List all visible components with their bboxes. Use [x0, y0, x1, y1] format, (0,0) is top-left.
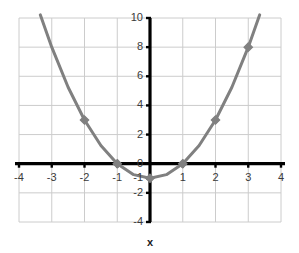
- x-axis-title: x: [130, 237, 170, 248]
- data-point-markers: [80, 43, 252, 183]
- y-tick-label: 2: [137, 129, 143, 140]
- x-tick-label: -1: [105, 172, 129, 183]
- y-tick-label: -4: [133, 216, 143, 227]
- x-tick-label: 4: [269, 172, 293, 183]
- chart-figure: -4-2-10246810 -4-3-2-11234 x: [0, 0, 299, 253]
- x-tick-label: 3: [236, 172, 260, 183]
- x-tick-label: 1: [171, 172, 195, 183]
- x-tick-label: -2: [73, 172, 97, 183]
- x-tick-label: -3: [40, 172, 64, 183]
- y-tick-label: 0: [137, 158, 143, 169]
- axis-lines: [15, 18, 285, 222]
- y-tick-label: 8: [137, 41, 143, 52]
- y-tick-label: 10: [131, 12, 143, 23]
- parabola-plot: [0, 0, 299, 253]
- y-tick-label: 6: [137, 70, 143, 81]
- x-tick-label: 2: [204, 172, 228, 183]
- y-tick-label: -2: [133, 187, 143, 198]
- y-tick-label: 4: [137, 99, 143, 110]
- x-tick-label: -4: [7, 172, 31, 183]
- y-tick-label: -1: [133, 172, 143, 183]
